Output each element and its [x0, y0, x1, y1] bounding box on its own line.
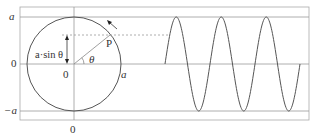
label-x-origin: 0	[70, 124, 76, 134]
arrow-up-icon	[65, 35, 69, 40]
label-a-sin-theta: a·sin θ	[35, 50, 63, 61]
label-zero-mid: 0	[11, 58, 17, 69]
label-center: 0	[63, 69, 69, 80]
label-a-top: a	[9, 11, 15, 22]
label-theta: θ	[89, 54, 94, 65]
arrow-down-icon	[65, 59, 69, 64]
frame	[20, 7, 309, 120]
label-minus-a: −a	[4, 105, 17, 116]
label-point-p: P	[106, 38, 112, 49]
label-radius: a	[121, 69, 127, 80]
diagram-canvas	[0, 0, 316, 134]
angle-arc	[82, 58, 84, 64]
